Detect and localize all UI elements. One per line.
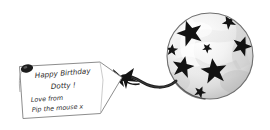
message-line-2: Dotty ! (51, 80, 77, 91)
illustration-scene: Happy Birthday Dotty ! Love from Pip the… (0, 0, 270, 130)
gift-tag: Happy Birthday Dotty ! Love from Pip the… (19, 62, 122, 119)
balloon-bottom-shade (220, 70, 256, 94)
star-balloon (162, 12, 256, 99)
